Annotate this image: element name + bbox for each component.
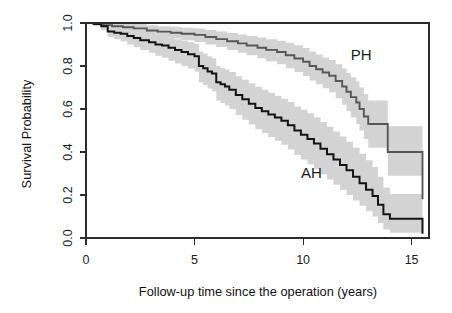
- y-tick-group: 0.00.20.40.60.81.0: [61, 14, 86, 246]
- plot-canvas: 0.00.20.40.60.81.0 051015 Follow-up time…: [0, 0, 452, 313]
- y-tick-label: 0.2: [61, 186, 75, 203]
- y-tick-label: 0.0: [61, 229, 75, 246]
- ci-bands-layer: [86, 23, 422, 238]
- x-axis-title: Follow-up time since the operation (year…: [139, 284, 377, 299]
- x-tick-label: 0: [83, 253, 90, 267]
- x-tick-label: 10: [296, 253, 310, 267]
- y-axis: 0.00.20.40.60.81.0: [61, 14, 86, 246]
- series-label-ph: PH: [351, 46, 372, 63]
- series-label-ah: AH: [301, 164, 322, 181]
- survival-plot-figure: 0.00.20.40.60.81.0 051015 Follow-up time…: [0, 0, 452, 313]
- y-tick-label: 0.8: [61, 57, 75, 74]
- y-tick-label: 1.0: [61, 14, 75, 31]
- y-tick-label: 0.6: [61, 100, 75, 117]
- y-axis-title: Survival Probability: [19, 79, 34, 188]
- x-tick-group: 051015: [83, 238, 419, 267]
- x-tick-label: 5: [191, 253, 198, 267]
- x-tick-label: 15: [405, 253, 419, 267]
- y-tick-label: 0.4: [61, 143, 75, 160]
- x-axis: 051015: [83, 238, 419, 267]
